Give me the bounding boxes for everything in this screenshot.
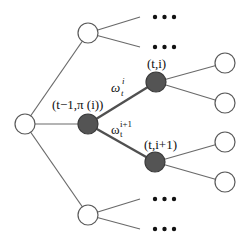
ellipsis-top-1 bbox=[153, 15, 176, 19]
root-node bbox=[15, 114, 35, 134]
tree-diagram: (t−1,π (i)) (t,i) (t,i+1) ω i t ω i+1 t bbox=[0, 0, 247, 242]
parent-node-label: (t−1,π (i)) bbox=[52, 97, 103, 112]
svg-text:ω: ω bbox=[111, 80, 120, 95]
parent-node bbox=[78, 114, 98, 134]
svg-text:t: t bbox=[120, 129, 123, 139]
leaf-node-3 bbox=[215, 132, 235, 152]
bottom-node bbox=[78, 205, 98, 225]
top-node bbox=[78, 23, 98, 43]
svg-text:t: t bbox=[121, 88, 124, 98]
child-node-i bbox=[146, 72, 166, 92]
edge-weight-i-plus-1-label: ω i+1 t bbox=[111, 119, 132, 139]
ellipsis-bottom-1 bbox=[153, 197, 176, 201]
leaf-node-4 bbox=[215, 172, 235, 192]
edge-ti-upper bbox=[156, 63, 225, 82]
edge-root-bottom bbox=[25, 124, 88, 215]
child-node-i-plus-1-label: (t,i+1) bbox=[144, 137, 177, 152]
ellipsis-top-2 bbox=[153, 45, 176, 49]
svg-text:ω: ω bbox=[111, 122, 120, 137]
ellipsis-bottom-2 bbox=[153, 227, 176, 231]
leaf-node-2 bbox=[215, 93, 235, 113]
leaf-node-1 bbox=[215, 53, 235, 73]
edge-ti-lower bbox=[156, 82, 225, 103]
svg-text:i: i bbox=[122, 76, 125, 86]
child-node-i-label: (t,i) bbox=[147, 56, 166, 71]
edge-ti1-lower bbox=[155, 162, 225, 182]
child-node-i-plus-1 bbox=[145, 152, 165, 172]
svg-text:i+1: i+1 bbox=[120, 119, 132, 129]
edge-weight-i-label: ω i t bbox=[111, 76, 125, 98]
